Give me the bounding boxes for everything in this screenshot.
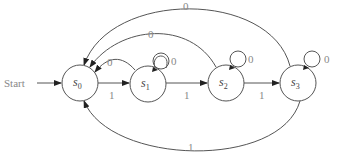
start-label: Start (4, 77, 25, 89)
loop-s2 (230, 51, 246, 67)
state-s2: s2 (208, 65, 244, 101)
state-s3: s3 (280, 65, 316, 101)
loop-s1 (154, 56, 167, 68)
edge-label-s0-s1: 1 (109, 89, 115, 101)
state-s1: s1 (130, 66, 166, 102)
diagram-canvas: Start 0 0 0 1 1 1 1 0 0 0 s0 s1 s2 s3 (0, 0, 340, 158)
state-s0: s0 (62, 65, 98, 101)
edge-label-s1-s1: 0 (171, 55, 177, 67)
edge-label-s2-s0: 0 (148, 28, 154, 40)
edge-label-s1-s0: 0 (107, 56, 113, 68)
edge-label-s1-s2: 1 (184, 89, 190, 101)
edge-label-s3-s3: 0 (324, 53, 330, 65)
edge-label-s2-s2: 0 (248, 53, 254, 65)
edge-label-s2-s3: 1 (259, 89, 265, 101)
edge-label-s3-s0-bottom: 1 (188, 141, 194, 153)
edge-label-s3-s0: 0 (183, 0, 189, 12)
fsm-diagram: Start 0 0 0 1 1 1 1 0 0 0 s0 s1 s2 s3 (0, 0, 340, 158)
loop-s3 (304, 51, 320, 67)
edge-s3-s0-0 (84, 9, 290, 66)
edge-s1-s0-0 (95, 59, 135, 72)
